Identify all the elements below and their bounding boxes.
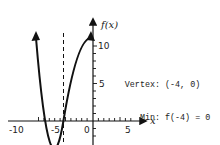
y-tick-label: 5 [99,79,105,89]
y-axis-label: f(x) [100,19,118,30]
min-key: Min: [118,113,160,124]
vertex-key: Vertex: [118,80,160,91]
min-value: f(-4) = 0 [160,113,210,124]
min-row: Min:f(-4) = 0 [118,113,210,124]
vertex-value: (-4, 0) [160,80,200,91]
vertex-row: Vertex:(-4, 0) [118,80,210,91]
x-tick-label: 0 [84,125,90,135]
x-tick-label: -10 [9,125,24,135]
vertex-info-panel: Vertex:(-4, 0) Min:f(-4) = 0 Axis:x = -4 [118,58,210,145]
x-tick-label: -5 [51,125,60,135]
y-tick-label: 10 [98,41,110,51]
